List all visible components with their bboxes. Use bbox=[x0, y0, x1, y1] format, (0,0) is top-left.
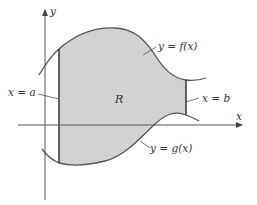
y-axis-label: y bbox=[49, 5, 57, 17]
region-between-curves-diagram: y x y = f(x) y = g(x) x = a x = b R bbox=[0, 0, 257, 205]
diagram-canvas: y x y = f(x) y = g(x) x = a x = b R bbox=[0, 0, 257, 205]
leader-right-bound bbox=[186, 98, 199, 102]
right-bound-label: x = b bbox=[202, 92, 230, 104]
left-bound-label: x = a bbox=[8, 86, 36, 98]
upper-curve-label: y = f(x) bbox=[157, 40, 197, 52]
x-axis-label: x bbox=[236, 110, 242, 122]
leader-left-bound bbox=[38, 94, 59, 99]
leader-lower-curve bbox=[140, 141, 150, 148]
region-label: R bbox=[114, 93, 123, 106]
lower-curve-label: y = g(x) bbox=[149, 142, 192, 154]
